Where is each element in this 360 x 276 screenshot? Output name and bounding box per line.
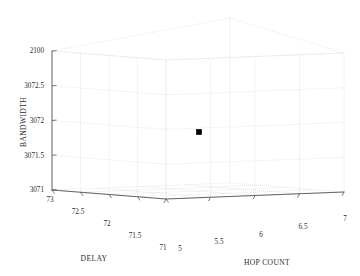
y-tick-label: 6 [259,231,263,239]
data-series [196,129,201,134]
y-tick-label: 7 [343,215,347,223]
right-wall-grid [166,53,344,199]
z-tick-label: 3072 [30,117,45,125]
plot-3d-axes: 2100 3072.5 3072 3071.5 3071 73 72.5 72 … [0,0,360,276]
box-top-edges [52,18,344,183]
data-point-marker[interactable] [196,129,201,134]
x-axis-title: DELAY [81,254,108,263]
z-axis-title: BANDWIDTH [19,97,28,147]
axis-spines [52,51,344,199]
z-tick-label: 2100 [30,47,45,55]
x-tick-label: 72 [103,220,111,228]
z-tick-label: 3071.5 [24,152,44,160]
x-axis-tick-labels: 73 72.5 72 71.5 71 [46,196,167,252]
z-tick-label: 3072.5 [24,82,44,90]
y-tick-label: 6.5 [299,223,308,231]
floor-grid [52,183,344,199]
x-tick-label: 72.5 [72,208,85,216]
left-wall-grid [52,51,166,199]
y-axis-tick-labels: 5 5.5 6 6.5 7 [178,215,347,253]
y-tick-label: 5 [178,245,182,253]
x-tick-label: 73 [46,196,54,204]
tick-marks [52,51,344,203]
x-tick-label: 71 [159,244,167,252]
z-tick-label: 3071 [30,186,45,194]
x-tick-label: 71.5 [129,232,142,240]
y-axis-title: HOP COUNT [244,258,290,267]
y-tick-label: 5.5 [215,238,224,246]
figure-canvas: 2100 3072.5 3072 3071.5 3071 73 72.5 72 … [0,0,360,276]
